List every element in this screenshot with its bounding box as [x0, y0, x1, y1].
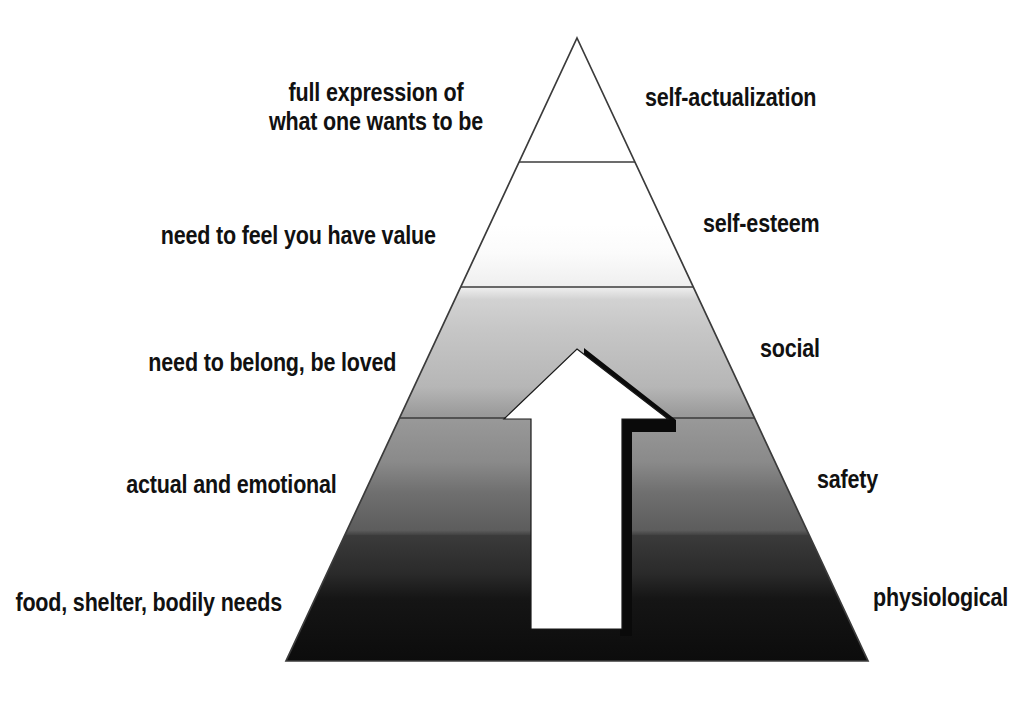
label-tier-self-actualization: self-actualization	[645, 83, 816, 112]
label-description-self-actualization: full expression of what one wants to be	[247, 78, 505, 135]
label-tier-safety: safety	[817, 465, 878, 494]
label-tier-self-esteem: self-esteem	[703, 209, 819, 238]
label-tier-social: social	[760, 334, 820, 363]
description-line-2: what one wants to be	[269, 107, 483, 135]
description-line-1: full expression of	[289, 78, 464, 106]
label-description-physiological: food, shelter, bodily needs	[15, 588, 282, 617]
label-description-self-esteem: need to feel you have value	[161, 221, 436, 250]
label-tier-physiological: physiological	[873, 583, 1008, 612]
label-description-safety: actual and emotional	[127, 470, 337, 499]
diagram-canvas: full expression of what one wants to be …	[0, 0, 1021, 701]
label-description-social: need to belong, be loved	[148, 348, 396, 377]
